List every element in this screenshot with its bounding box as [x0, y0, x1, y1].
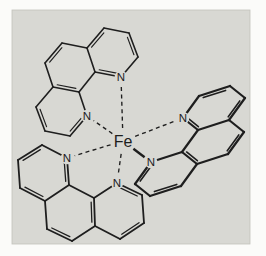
- panel-background: [12, 10, 250, 244]
- molecule-diagram: NNNNNNFe: [0, 0, 266, 256]
- double-bond-inner: [91, 202, 92, 222]
- nitrogen-label: N: [117, 71, 125, 83]
- nitrogen-label: N: [83, 110, 91, 122]
- bond: [94, 198, 95, 226]
- figure-root: NNNNNNFe: [0, 0, 266, 256]
- nitrogen-label: N: [63, 152, 71, 164]
- nitrogen-label: N: [113, 177, 121, 189]
- fe-label: Fe: [114, 133, 133, 150]
- nitrogen-label: N: [147, 156, 155, 168]
- nitrogen-label: N: [179, 112, 187, 124]
